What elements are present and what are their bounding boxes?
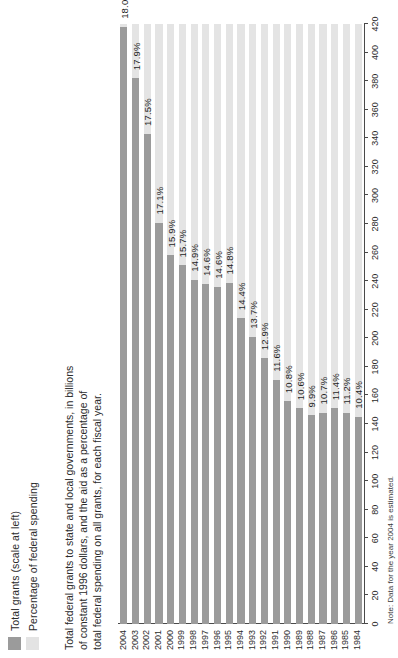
total-grants-bar[interactable]	[355, 417, 362, 624]
total-grants-bar[interactable]	[155, 223, 162, 624]
percentage-label: 9.9%	[306, 385, 317, 407]
total-grants-bar[interactable]	[284, 401, 291, 624]
bar-row[interactable]: 11.4%1986	[331, 24, 338, 624]
total-grants-bar[interactable]	[331, 408, 338, 624]
description-line-1: Total federal grants to state and local …	[62, 290, 76, 650]
axis-tick-label: 420	[370, 16, 380, 31]
percentage-label: 10.6%	[294, 372, 305, 400]
axis-tick	[364, 280, 368, 281]
percentage-label: 15.7%	[177, 230, 188, 258]
legend-item-total-grants: Total grants (scale at left)	[8, 482, 21, 650]
bar-row[interactable]: 14.4%1994	[237, 24, 244, 624]
bar-row[interactable]: 9.9%1988	[308, 24, 315, 624]
axis-tick	[364, 223, 368, 224]
total-grants-bar[interactable]	[132, 78, 139, 624]
total-grants-bar[interactable]	[226, 283, 233, 624]
total-grants-bar[interactable]	[296, 408, 303, 624]
year-label: 1997	[200, 630, 210, 650]
axis-tick-label: 400	[370, 45, 380, 60]
bar-row[interactable]: 15.9%2000	[167, 24, 174, 624]
total-grants-bar[interactable]	[214, 287, 221, 624]
total-grants-bar[interactable]	[237, 318, 244, 624]
axis-tick	[364, 252, 368, 253]
bar-row[interactable]: 17.1%2001	[155, 24, 162, 624]
total-grants-bar[interactable]	[202, 284, 209, 624]
year-label: 1999	[176, 630, 186, 650]
axis-tick-label: 380	[370, 74, 380, 89]
axis-tick-label: 320	[370, 159, 380, 174]
total-grants-bar[interactable]	[179, 265, 186, 624]
axis-tick-label: 120	[370, 445, 380, 460]
percentage-label: 14.6%	[200, 248, 211, 276]
year-label: 1992	[258, 630, 268, 650]
dark-swatch-icon	[8, 637, 21, 650]
bar-row[interactable]: 10.8%1990	[284, 24, 291, 624]
axis-tick	[364, 480, 368, 481]
axis-tick	[364, 52, 368, 53]
total-grants-bar[interactable]	[343, 413, 350, 624]
percentage-label: 14.9%	[189, 244, 200, 272]
bar-row[interactable]: 17.5%2002	[144, 24, 151, 624]
chart-figure: Total grants (scale at left) Percentage …	[0, 0, 398, 658]
bar-row[interactable]: 11.2%1985	[343, 24, 350, 624]
percentage-label: 11.6%	[271, 344, 282, 371]
axis-tick-label: 80	[370, 505, 380, 515]
year-label: 2002	[141, 630, 151, 650]
total-grants-bar[interactable]	[191, 280, 198, 624]
axis-tick	[364, 623, 368, 624]
percentage-label: 18.0%	[118, 0, 129, 19]
percentage-label: 10.8%	[282, 365, 293, 393]
bar-row[interactable]: 15.7%1999	[179, 24, 186, 624]
axis-tick	[364, 166, 368, 167]
total-grants-bar[interactable]	[308, 415, 315, 624]
plot-area: 18.0%200417.9%200317.5%200217.1%200115.9…	[118, 24, 364, 624]
total-grants-bar[interactable]	[167, 255, 174, 624]
year-label: 1986	[329, 630, 339, 650]
description-line-2: of constant 1996 dollars, and the aid as…	[76, 290, 90, 650]
bar-row[interactable]: 13.7%1993	[249, 24, 256, 624]
total-grants-bar[interactable]	[120, 27, 127, 624]
legend-label-total-grants: Total grants (scale at left)	[9, 511, 21, 631]
bar-row[interactable]: 14.6%1996	[214, 24, 221, 624]
axis-tick-label: 200	[370, 331, 380, 346]
axis-tick	[364, 452, 368, 453]
axis-tick	[364, 537, 368, 538]
year-label: 2000	[165, 630, 175, 650]
percentage-label: 14.4%	[235, 282, 246, 310]
percentage-label: 17.9%	[130, 42, 141, 70]
bar-row[interactable]: 14.8%1995	[226, 24, 233, 624]
axis-tick	[364, 23, 368, 24]
bar-row[interactable]: 10.7%1987	[319, 24, 326, 624]
year-label: 1996	[212, 630, 222, 650]
bar-row[interactable]: 14.9%1998	[191, 24, 198, 624]
bar-row[interactable]: 17.9%2003	[132, 24, 139, 624]
total-grants-bar[interactable]	[273, 380, 280, 624]
year-label: 2001	[153, 630, 163, 650]
axis-tick-label: 260	[370, 245, 380, 260]
percentage-label: 10.7%	[317, 377, 328, 405]
total-grants-bar[interactable]	[319, 413, 326, 624]
year-label: 2003	[130, 630, 140, 650]
axis-tick-label: 180	[370, 359, 380, 374]
legend-label-percentage: Percentage of federal spending	[27, 482, 39, 631]
total-grants-bar[interactable]	[144, 134, 151, 624]
bar-row[interactable]: 12.9%1992	[261, 24, 268, 624]
bar-row[interactable]: 14.6%1997	[202, 24, 209, 624]
axis-tick	[364, 394, 368, 395]
bar-row[interactable]: 10.4%1984	[355, 24, 362, 624]
chart-note: Note: Data for the year 2004 is estimate…	[386, 476, 395, 624]
year-label: 1991	[270, 630, 280, 650]
bar-row[interactable]: 10.6%1989	[296, 24, 303, 624]
bar-row[interactable]: 11.6%1991	[273, 24, 280, 624]
axis-tick-label: 340	[370, 131, 380, 146]
bar-row[interactable]: 18.0%2004	[120, 24, 127, 624]
total-grants-bar[interactable]	[249, 337, 256, 624]
axis-tick	[364, 594, 368, 595]
axis-tick-label: 280	[370, 216, 380, 231]
chart-legend: Total grants (scale at left) Percentage …	[8, 482, 39, 650]
year-label: 1998	[188, 630, 198, 650]
percentage-label: 14.6%	[212, 251, 223, 279]
total-grants-bar[interactable]	[261, 358, 268, 624]
axis-tick	[364, 309, 368, 310]
percentage-label: 10.4%	[353, 381, 364, 409]
